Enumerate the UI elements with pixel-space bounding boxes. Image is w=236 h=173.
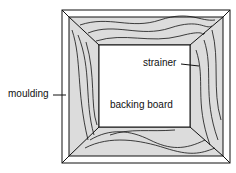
frame-illustration bbox=[0, 0, 236, 173]
frame-diagram: moulding strainer backing board bbox=[0, 0, 236, 173]
backing-board-label: backing board bbox=[110, 100, 173, 110]
strainer-label: strainer bbox=[143, 58, 176, 68]
moulding-label: moulding bbox=[8, 89, 49, 99]
